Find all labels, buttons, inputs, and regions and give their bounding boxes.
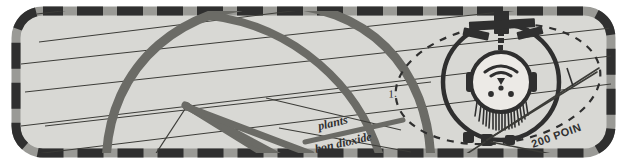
- diagram-panel: plants bon dioxide 1.: [11, 6, 616, 158]
- screenshot-root: plants bon dioxide 1.: [0, 0, 627, 166]
